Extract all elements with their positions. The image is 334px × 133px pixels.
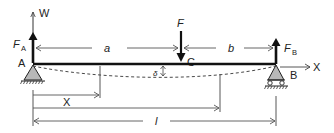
reaction-fa-label: F <box>13 38 21 50</box>
reaction-fb-arrow: F B <box>272 38 298 64</box>
deflection-indicator: δ <box>153 66 166 78</box>
x-axis: X <box>280 61 321 73</box>
dimension-a-label: a <box>104 42 110 54</box>
reaction-fa-subscript: A <box>21 44 26 53</box>
point-a-label: A <box>18 57 26 69</box>
dimension-b: b <box>184 42 273 54</box>
beam-diagram: W F A a b F C F B X <box>0 0 334 133</box>
reaction-fb-label: F <box>284 42 292 54</box>
w-axis-label: W <box>39 7 50 19</box>
dimension-l-label: l <box>155 115 158 127</box>
w-axis: W <box>33 7 50 63</box>
dimension-x-label: X <box>63 96 71 108</box>
point-b-label: B <box>290 69 297 81</box>
support-b: B <box>265 65 298 89</box>
x-axis-label: X <box>313 61 321 73</box>
load-label: F <box>177 17 185 29</box>
load-arrow: F C <box>177 17 196 68</box>
dimension-a: a <box>36 42 178 54</box>
point-c-label: C <box>187 56 195 68</box>
dimension-b-label: b <box>228 42 234 54</box>
support-a: A <box>18 57 45 84</box>
dimension-x: X <box>33 92 99 108</box>
deflection-label: δ <box>153 69 158 78</box>
dimension-l: l <box>34 115 275 127</box>
dimension-c <box>33 105 219 111</box>
reaction-fb-subscript: B <box>292 48 297 57</box>
